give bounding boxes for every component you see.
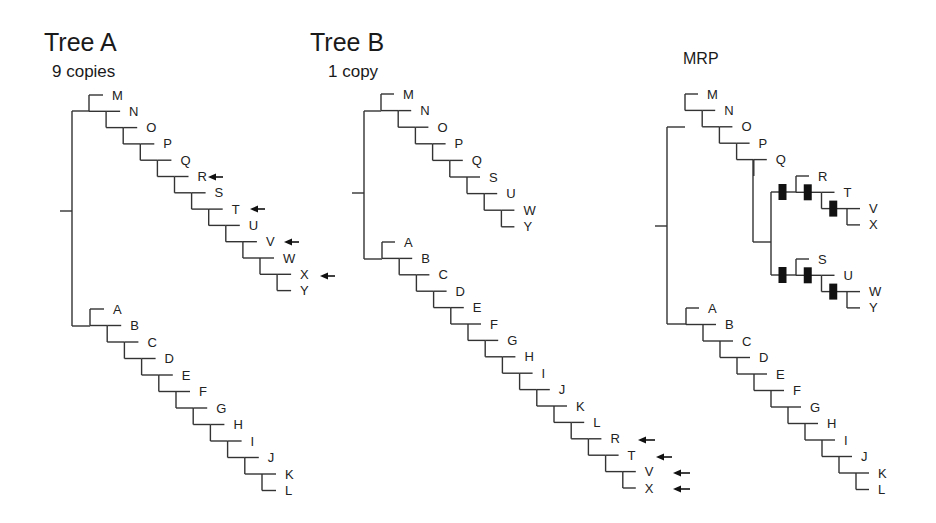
tree-b-title: Tree B (310, 28, 384, 56)
arrow-head (673, 470, 681, 477)
taxon-label-O: O (146, 120, 156, 135)
clade-lower-clade: ABCDEFGHIJKL (667, 301, 887, 498)
taxon-label-I: I (844, 433, 848, 448)
taxon-label-G: G (507, 333, 517, 348)
taxon-label-C: C (742, 334, 751, 349)
taxon-label-X: X (300, 267, 309, 282)
taxon-label-W: W (869, 284, 882, 299)
taxon-label-U: U (844, 268, 853, 283)
arrow-head (250, 206, 258, 213)
arrow-icon-V (284, 239, 299, 246)
taxon-label-B: B (421, 251, 430, 266)
taxon-label-G: G (810, 400, 820, 415)
taxon-label-T: T (628, 448, 636, 463)
arrow-head (638, 437, 646, 444)
taxon-label-A: A (404, 235, 413, 250)
taxon-label-N: N (420, 103, 429, 118)
tree-mrp: MNOPQABCDEFGHIJKLRTVXSUWY (655, 87, 887, 498)
character-bar-icon (779, 267, 787, 283)
taxon-label-H: H (524, 349, 533, 364)
tree-a: MNOPQRSTUVWXYABCDEFGHIJKL (60, 88, 335, 499)
taxon-label-H: H (233, 417, 242, 432)
mrp-title: MRP (683, 50, 719, 67)
tree-a-subtitle: 9 copies (52, 62, 115, 81)
arrow-icon-R (208, 174, 223, 181)
taxon-label-A: A (708, 301, 717, 316)
taxon-label-E: E (776, 367, 785, 382)
taxon-label-P: P (455, 136, 464, 151)
arrow-icon-X (320, 273, 335, 280)
mrp-unresolved-region: RTVXSUWY (753, 160, 882, 315)
taxon-label-P: P (163, 136, 172, 151)
taxon-label-U: U (506, 186, 515, 201)
taxon-label-C: C (438, 267, 447, 282)
arrow-icon-V (673, 470, 690, 477)
taxon-label-P: P (759, 136, 768, 151)
taxon-label-O: O (741, 119, 751, 134)
arrow-head (656, 454, 664, 461)
tree-b-title-group: Tree B 1 copy (310, 28, 384, 81)
taxon-label-Q: Q (472, 153, 482, 168)
taxon-label-D: D (456, 284, 465, 299)
character-bar-icon (804, 184, 812, 200)
taxon-label-D: D (165, 351, 174, 366)
clade-upper-clade: MNOPQSUWY (364, 87, 536, 235)
taxon-label-X: X (869, 217, 878, 232)
taxon-label-U: U (249, 218, 258, 233)
taxon-label-M: M (707, 87, 718, 102)
phylogeny-figure: Tree A 9 copies Tree B 1 copy MRP MNOPQR… (0, 0, 936, 523)
taxon-label-M: M (403, 87, 414, 102)
taxon-label-F: F (793, 383, 801, 398)
taxon-label-M: M (112, 88, 123, 103)
taxon-label-R: R (610, 431, 619, 446)
clade-upper-clade: MNOPQRSTUVWXY (72, 88, 309, 299)
taxon-label-B: B (725, 317, 734, 332)
clade-lower-clade: ABCDEFGHIJKLRTVX (364, 235, 654, 496)
tree-b: MNOPQSUWYABCDEFGHIJKLRTVX (352, 87, 690, 496)
arrow-head (673, 486, 681, 493)
taxon-label-E: E (473, 300, 482, 315)
taxon-label-O: O (437, 120, 447, 135)
taxon-label-Q: Q (776, 152, 786, 167)
arrow-icon-X (673, 486, 690, 493)
taxon-label-I: I (251, 434, 255, 449)
taxon-label-X: X (645, 481, 654, 496)
taxon-label-W: W (523, 203, 536, 218)
taxon-label-Q: Q (180, 153, 190, 168)
subclade-RTVX: RTVX (771, 169, 878, 233)
taxon-label-N: N (724, 103, 733, 118)
arrow-head (208, 174, 216, 181)
taxon-label-F: F (199, 384, 207, 399)
character-bar-icon (779, 184, 787, 200)
taxon-label-V: V (869, 201, 878, 216)
arrow-icon-T (250, 206, 265, 213)
taxon-label-N: N (129, 104, 138, 119)
taxon-label-S: S (818, 252, 827, 267)
taxon-label-A: A (113, 302, 122, 317)
taxon-label-T: T (844, 185, 852, 200)
taxon-label-W: W (283, 251, 296, 266)
character-bar-icon (829, 201, 837, 217)
taxon-label-B: B (130, 318, 139, 333)
taxon-label-C: C (147, 335, 156, 350)
taxon-label-Y: Y (869, 300, 878, 315)
taxon-label-V: V (266, 234, 275, 249)
taxon-label-Y: Y (523, 219, 532, 234)
arrow-icon-T (656, 454, 672, 461)
taxon-label-H: H (827, 416, 836, 431)
taxon-label-Y: Y (300, 283, 309, 298)
taxon-label-L: L (285, 483, 292, 498)
taxon-label-J: J (559, 382, 566, 397)
clade-upper-backbone: MNOPQ (667, 87, 786, 177)
taxon-label-F: F (490, 317, 498, 332)
taxon-label-K: K (878, 466, 887, 481)
character-bar-icon (829, 284, 837, 300)
tree-a-title-group: Tree A 9 copies (44, 28, 117, 81)
arrow-head (284, 239, 292, 246)
arrow-head (320, 273, 328, 280)
arrow-icon-R (638, 437, 655, 444)
taxon-label-I: I (542, 366, 546, 381)
taxon-label-G: G (216, 401, 226, 416)
taxon-label-R: R (198, 169, 207, 184)
subclade-SUWY: SUWY (771, 252, 882, 316)
